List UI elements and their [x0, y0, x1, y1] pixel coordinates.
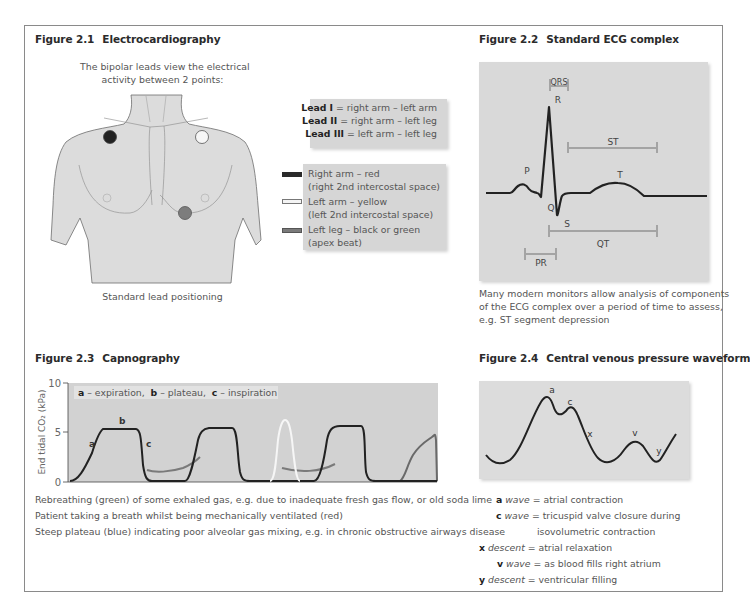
svg-text:0: 0 — [55, 477, 61, 487]
figure-2-1-title: Figure 2.1Electrocardiography — [35, 33, 220, 45]
svg-text:S: S — [564, 219, 570, 229]
fig22-caption-line1: Many modern monitors allow analysis of c… — [479, 287, 729, 301]
capnography-note-rebreathing: Rebreathing (green) of some exhaled gas,… — [35, 493, 492, 507]
svg-text:End tidal CO₂ (kPa): End tidal CO₂ (kPa) — [37, 389, 47, 474]
svg-text:T: T — [616, 170, 623, 180]
fig21-caption: Standard lead positioning — [80, 290, 245, 304]
capnography-legend: a – expiration, b – plateau, c – inspira… — [74, 386, 278, 399]
svg-text:y: y — [656, 446, 662, 456]
svg-text:R: R — [555, 95, 561, 105]
fig21-intro-line2: activity between 2 points: — [80, 73, 245, 87]
svg-text:c: c — [568, 397, 573, 407]
right-arm-electrode — [104, 131, 117, 144]
svg-text:b: b — [119, 416, 126, 426]
cvp-legend-x: x descent = atrial relaxation — [479, 540, 612, 555]
lead-3: Lead III = left arm – left leg — [305, 128, 437, 139]
ecg-waveform: QRS R ST P T Q S QT PR — [479, 62, 708, 281]
lead-1: Lead I = right arm – left arm — [301, 102, 437, 113]
svg-text:a: a — [89, 439, 95, 449]
svg-text:ST: ST — [607, 137, 619, 147]
svg-text:QT: QT — [597, 239, 610, 249]
left-leg-electrode — [179, 207, 192, 220]
electrode-left-leg: Left leg – black or green(apex beat) — [308, 223, 420, 249]
fig22-caption-line2: of the ECG complex over a period of time… — [479, 300, 723, 314]
left-leg-swatch — [282, 228, 302, 233]
svg-text:PR: PR — [535, 258, 547, 268]
torso-illustration — [40, 90, 280, 290]
figure-2-4-title: Figure 2.4Central venous pressure wavefo… — [479, 352, 750, 364]
electrode-legend-box: Right arm – red(right 2nd intercostal sp… — [303, 164, 446, 250]
figure-2-3-title: Figure 2.3Capnography — [35, 352, 180, 364]
cvp-legend-v: v wave = as blood fills right atrium — [497, 556, 661, 571]
cvp-legend-c: c wave = tricuspid valve closure during — [496, 508, 680, 523]
fig21-intro-line1: The bipolar leads view the electrical — [80, 60, 245, 74]
left-arm-swatch — [282, 199, 302, 204]
svg-text:Q: Q — [547, 203, 554, 213]
right-arm-swatch — [282, 172, 302, 177]
cvp-legend-y: y descent = ventricular filling — [479, 572, 617, 587]
lead-2: Lead II = right arm – left leg — [302, 115, 437, 126]
svg-text:10: 10 — [48, 378, 61, 389]
fig22-caption-line3: e.g. ST segment depression — [479, 313, 610, 327]
svg-text:x: x — [587, 429, 593, 439]
svg-text:P: P — [524, 166, 530, 176]
cvp-waveform: a c x v y — [479, 381, 689, 479]
svg-text:QRS: QRS — [551, 78, 568, 87]
figure-2-2-title: Figure 2.2Standard ECG complex — [479, 33, 679, 45]
cvp-legend-c-cont: isovolumetric contraction — [537, 524, 655, 539]
svg-text:5: 5 — [55, 427, 61, 438]
electrode-right-arm: Right arm – red(right 2nd intercostal sp… — [308, 167, 440, 193]
capnography-note-ventilated: Patient taking a breath whilst being mec… — [35, 509, 343, 523]
lead-definitions-box: Lead I = right arm – left arm Lead II = … — [310, 99, 447, 148]
svg-text:a: a — [549, 385, 555, 395]
svg-text:c: c — [146, 439, 151, 449]
cvp-legend-a: a wave = atrial contraction — [496, 492, 623, 507]
svg-text:v: v — [632, 428, 638, 438]
capnography-note-steep-plateau: Steep plateau (blue) indicating poor alv… — [35, 525, 505, 539]
left-arm-electrode — [196, 131, 209, 144]
electrode-left-arm: Left arm – yellow(left 2nd intercostal s… — [308, 195, 433, 221]
